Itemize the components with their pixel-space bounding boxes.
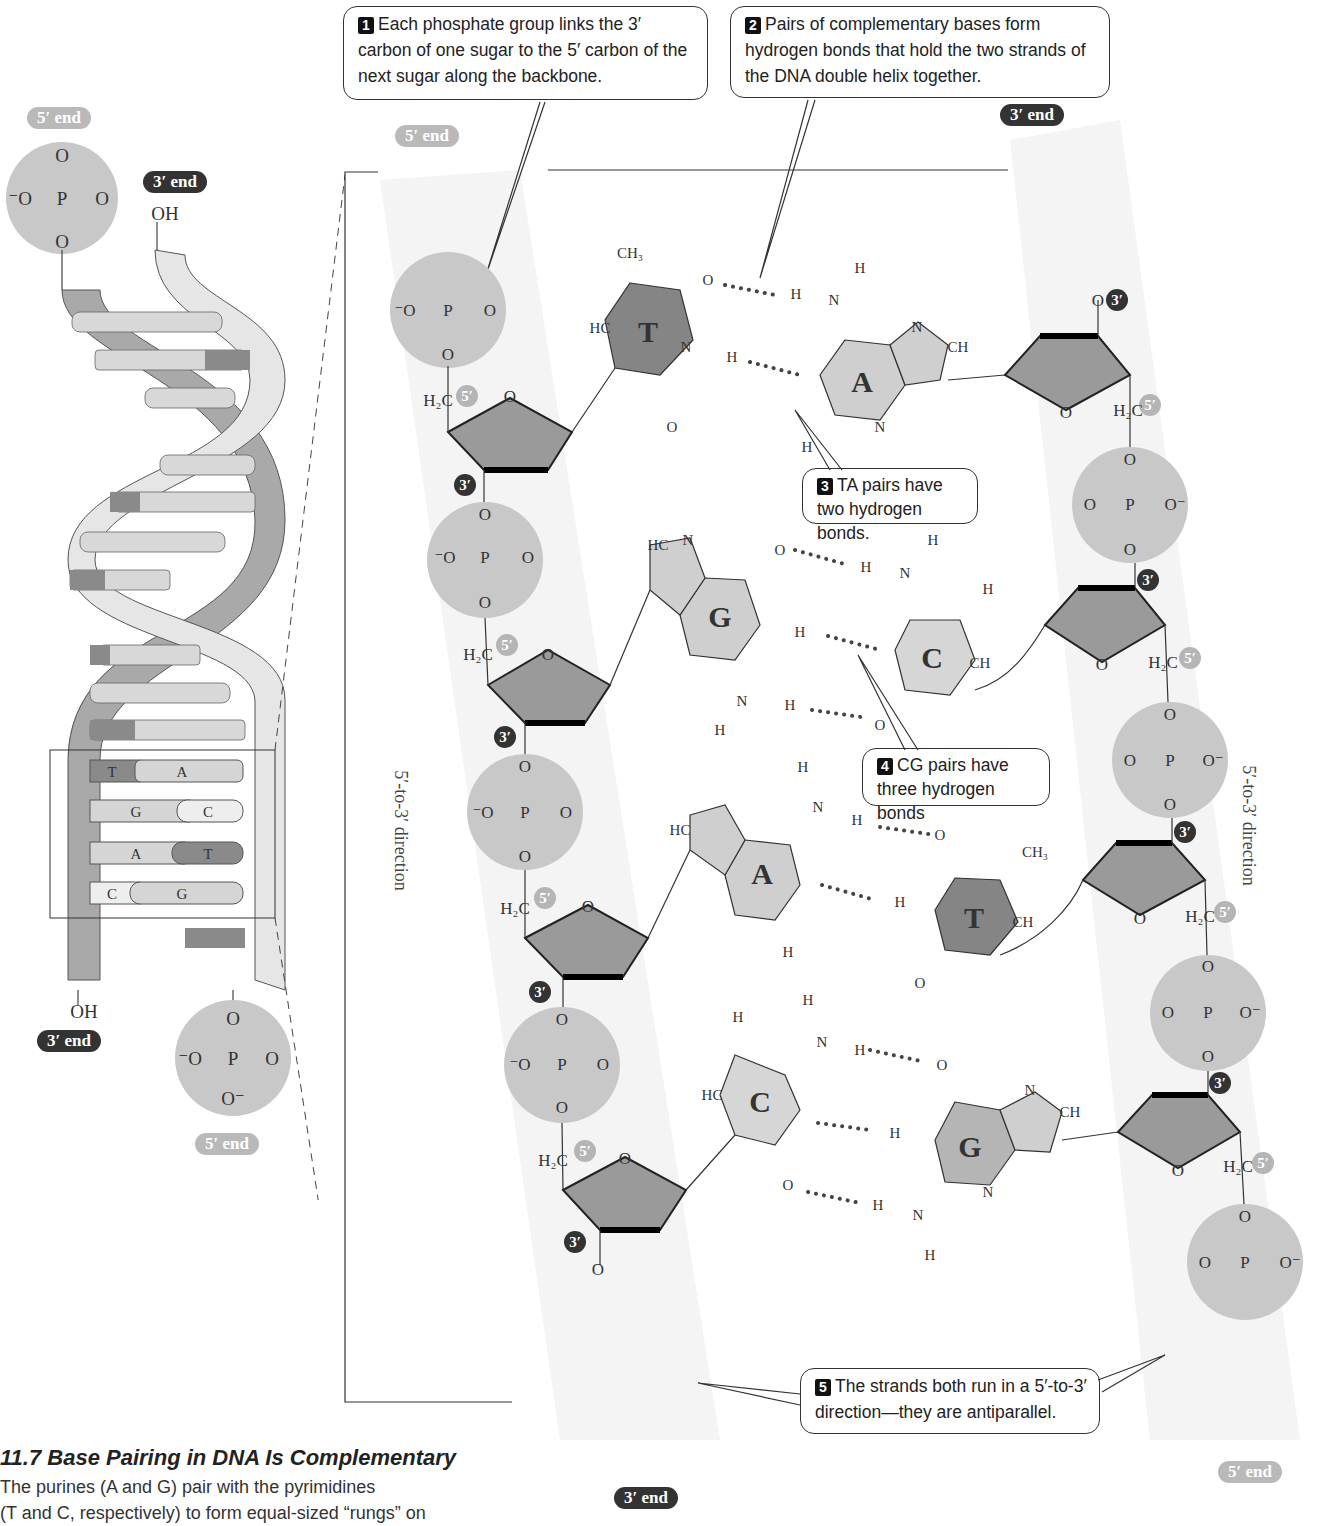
svg-text:H₂C: H₂C <box>1148 653 1178 672</box>
svg-text:H₂C: H₂C <box>1223 1157 1253 1176</box>
svg-text:O: O <box>55 145 69 166</box>
svg-text:O: O <box>479 505 491 524</box>
svg-text:CH₃: CH₃ <box>617 245 643 261</box>
helix-base-G: G <box>131 804 142 820</box>
svg-text:O: O <box>1172 1161 1184 1180</box>
base-G-4: G <box>958 1130 981 1163</box>
svg-text:O: O <box>519 847 531 866</box>
callout-number-5: 5 <box>815 1379 831 1396</box>
svg-text:H: H <box>715 722 726 738</box>
svg-text:O: O <box>1202 957 1214 976</box>
svg-text:⁻O: ⁻O <box>509 1055 530 1074</box>
svg-text:O: O <box>592 1260 604 1279</box>
svg-text:CH₃: CH₃ <box>1022 844 1048 860</box>
svg-text:O: O <box>226 1008 240 1029</box>
svg-text:H: H <box>873 1197 884 1213</box>
helix-base-A: A <box>177 764 188 780</box>
callout-number-4: 4 <box>877 758 893 775</box>
svg-text:H: H <box>855 1042 866 1058</box>
svg-text:H: H <box>890 1125 901 1141</box>
svg-text:3′: 3′ <box>459 477 471 493</box>
svg-text:H: H <box>928 532 939 548</box>
callout-number-2: 2 <box>745 17 761 34</box>
svg-text:HC: HC <box>648 537 669 553</box>
svg-text:CH: CH <box>948 339 969 355</box>
svg-text:H: H <box>783 944 794 960</box>
svg-text:N: N <box>737 693 748 709</box>
svg-text:P: P <box>480 548 489 567</box>
callout-number-1: 1 <box>358 17 374 34</box>
svg-text:HC: HC <box>702 1087 723 1103</box>
svg-text:3′: 3′ <box>499 729 511 745</box>
svg-text:O: O <box>519 757 531 776</box>
svg-text:3′: 3′ <box>1179 824 1191 840</box>
svg-text:5′: 5′ <box>539 890 551 906</box>
svg-text:H: H <box>861 559 872 575</box>
svg-text:5′: 5′ <box>1144 397 1156 413</box>
svg-text:O: O <box>1124 540 1136 559</box>
svg-text:O: O <box>55 231 69 252</box>
svg-text:O⁻: O⁻ <box>1279 1253 1300 1272</box>
svg-text:CH: CH <box>970 655 991 671</box>
svg-text:H: H <box>791 286 802 302</box>
svg-text:H₂C: H₂C <box>463 645 493 664</box>
svg-text:O: O <box>582 897 594 916</box>
svg-text:N: N <box>829 292 840 308</box>
svg-text:H: H <box>895 894 906 910</box>
svg-text:OH: OH <box>70 1001 98 1022</box>
svg-text:H: H <box>855 260 866 276</box>
svg-text:N: N <box>817 1034 828 1050</box>
strand1-3prime-end-label: 3′ end <box>614 1487 678 1509</box>
base-T-1: T <box>638 315 658 348</box>
strand1-5prime-end-label: 5′ end <box>395 125 459 147</box>
svg-text:H: H <box>852 812 863 828</box>
svg-text:O: O <box>1164 795 1176 814</box>
direction-label-right: 5′-to-3′ direction <box>1238 765 1259 885</box>
svg-text:H: H <box>802 439 813 455</box>
callout-5-antiparallel: 5The strands both run in a 5′-to-3′ dire… <box>800 1368 1100 1434</box>
svg-text:O⁻: O⁻ <box>1239 1003 1260 1022</box>
svg-text:N: N <box>875 419 886 435</box>
svg-text:O: O <box>1060 403 1072 422</box>
svg-text:⁻O: ⁻O <box>178 1048 202 1069</box>
svg-text:O: O <box>484 301 496 320</box>
svg-text:O: O <box>1202 1047 1214 1066</box>
svg-text:O: O <box>1084 495 1096 514</box>
svg-text:O: O <box>1239 1207 1251 1226</box>
figure-title: 11.7 Base Pairing in DNA Is Complementar… <box>0 1445 456 1471</box>
svg-text:P: P <box>228 1048 239 1069</box>
svg-text:O: O <box>1164 705 1176 724</box>
svg-text:H: H <box>925 1247 936 1263</box>
base-G-2: G <box>708 600 731 633</box>
svg-text:3′: 3′ <box>1142 572 1154 588</box>
svg-text:H: H <box>785 697 796 713</box>
svg-text:O: O <box>597 1055 609 1074</box>
svg-text:N: N <box>983 1184 994 1200</box>
helix-base-C2: C <box>107 886 117 902</box>
svg-text:P: P <box>520 803 529 822</box>
helix-base-T: T <box>107 764 116 780</box>
svg-text:O: O <box>1134 909 1146 928</box>
strand-continues-bottom-right: Strandcontinues <box>1193 1336 1298 1386</box>
base-A-1: A <box>851 365 873 398</box>
svg-text:H: H <box>733 1009 744 1025</box>
svg-text:N: N <box>900 565 911 581</box>
svg-text:O: O <box>915 975 926 991</box>
svg-text:O: O <box>556 1010 568 1029</box>
base-C-2: C <box>921 641 943 674</box>
svg-text:O⁻: O⁻ <box>1164 495 1185 514</box>
svg-text:O: O <box>1096 655 1108 674</box>
svg-text:H₂C: H₂C <box>423 391 453 410</box>
svg-text:H₂C: H₂C <box>1185 907 1215 926</box>
callout-4-cg-pairs: 4CG pairs have three hydrogen bonds <box>862 748 1050 806</box>
svg-text:O: O <box>1199 1253 1211 1272</box>
svg-text:CH: CH <box>1060 1104 1081 1120</box>
svg-text:3′: 3′ <box>534 984 546 1000</box>
svg-text:5′: 5′ <box>1257 1155 1269 1171</box>
helix-base-A2: A <box>131 846 142 862</box>
svg-text:⁻O: ⁻O <box>8 188 32 209</box>
svg-text:O: O <box>95 188 109 209</box>
callout-1-phosphate-links: 1Each phosphate group links the 3′ carbo… <box>343 6 708 100</box>
svg-text:5′: 5′ <box>1219 904 1231 920</box>
svg-text:⁻O: ⁻O <box>394 301 415 320</box>
